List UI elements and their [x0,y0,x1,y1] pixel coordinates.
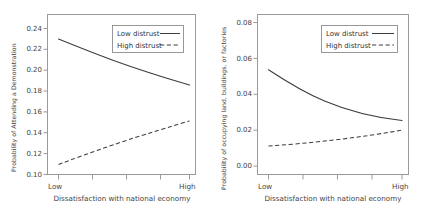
left-ytick-label: 0.16 [20,108,42,116]
right-y-axis-title: Probability of occupying land, buildings… [220,27,227,190]
left-y-axis-title: Probability of Attending a Demonstration [10,43,17,172]
right-ytick-label: 0.04 [230,90,252,98]
left-legend-item-high-distrust: High distrust [117,42,162,50]
right-ytick-label: 0.00 [230,162,252,170]
right-xtick-low: Low [258,182,272,191]
left-ytick-label: 0.12 [20,150,42,158]
left-ytick-label: 0.18 [20,87,42,95]
chart-panel-left: 0.24 0.22 0.20 0.18 0.16 0.14 0.12 0.10 … [0,0,212,220]
right-legend-item-low-distrust: Low distrust [326,30,369,38]
chart-panel-right: 0.08 0.06 0.04 0.02 0.00 Low High Probab… [211,0,423,220]
left-ytick-label: 0.14 [20,129,42,137]
left-ytick-label: 0.22 [20,45,42,53]
left-legend-item-low-distrust: Low distrust [117,30,160,38]
figure-root: 0.24 0.22 0.20 0.18 0.16 0.14 0.12 0.10 … [0,0,423,220]
right-xtick-high: High [392,182,409,191]
right-ytick-label: 0.08 [230,19,252,27]
right-ytick-label: 0.06 [230,55,252,63]
left-ytick-label: 0.24 [20,25,42,33]
right-x-axis-title: Dissatisfaction with national economy [248,194,418,203]
right-legend-item-high-distrust: High distrust [326,42,371,50]
left-series-high-distrust [59,121,190,165]
right-x-ticks [269,175,403,180]
left-xtick-low: Low [48,182,62,191]
left-ytick-label: 0.10 [20,171,42,179]
right-ytick-label: 0.02 [230,126,252,134]
left-xtick-high: High [179,182,196,191]
left-ytick-label: 0.20 [20,66,42,74]
right-series-low-distrust [269,70,403,121]
left-x-axis-title: Dissatisfaction with national economy [37,194,207,203]
left-y-ticks [44,29,48,175]
right-y-ticks [254,23,258,167]
right-series-high-distrust [269,130,403,146]
left-x-ticks [59,175,190,180]
